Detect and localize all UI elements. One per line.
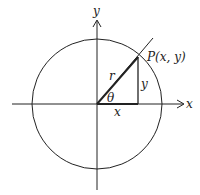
y-axis-label: y [92,4,100,18]
x-axis-label: x [186,97,193,111]
radius-segment [97,57,138,104]
unit-circle-diagram: y x P(x, y) r θ y x [0,0,200,195]
radius-label: r [109,69,116,83]
angle-label: θ [107,91,115,105]
diagram-canvas: y x P(x, y) r θ y x [0,0,200,195]
vertical-leg-label: y [140,77,148,91]
horizontal-leg-label: x [114,105,121,119]
point-label: P(x, y) [146,50,186,64]
